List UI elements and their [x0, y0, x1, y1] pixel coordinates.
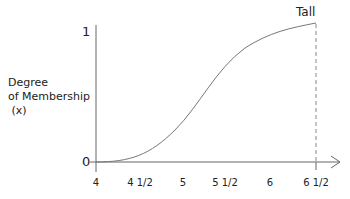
x-tick-4: 4 — [93, 177, 99, 188]
x-tick-6-1-2: 6 1/2 — [303, 177, 329, 188]
y-tick-0: 0 — [82, 154, 90, 169]
series-label-tall: Tall — [296, 5, 315, 19]
y-label-line-2: of Membership — [8, 90, 90, 103]
y-tick-1: 1 — [82, 24, 90, 39]
x-tick-5-1-2: 5 1/2 — [212, 177, 238, 188]
y-label-line-3: (x) — [8, 104, 27, 117]
x-tick-5: 5 — [180, 177, 186, 188]
y-label-line-1: Degree — [8, 76, 48, 89]
x-tick-6: 6 — [267, 177, 273, 188]
x-tick-4-1-2: 4 1/2 — [127, 177, 153, 188]
membership-curve-tall — [96, 23, 316, 162]
